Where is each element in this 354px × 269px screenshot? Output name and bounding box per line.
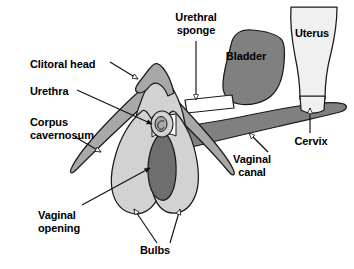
- cervix-shape: [300, 96, 325, 113]
- label-corpus-cavernosum-line2: cavernosum: [30, 129, 94, 141]
- bulbs-leader-right: [170, 209, 180, 243]
- label-urethral-sponge-line1: Urethral: [175, 11, 216, 23]
- label-bladder: Bladder: [218, 50, 274, 63]
- label-vaginal-canal: Vaginalcanal: [222, 153, 282, 178]
- label-vaginal-opening: Vaginalopening: [38, 209, 80, 234]
- urethral-sponge-shape: [185, 95, 234, 113]
- label-cervix: Cervix: [285, 135, 337, 148]
- bladder-shape: [223, 30, 285, 105]
- bulbs-leader-left: [134, 209, 157, 243]
- label-corpus-cavernosum-line1: Corpus: [30, 116, 68, 128]
- label-clitoral-head: Clitoral head: [30, 58, 95, 71]
- label-bulbs: Bulbs: [130, 244, 180, 257]
- label-urethral-sponge: Urethralsponge: [156, 11, 236, 36]
- label-uterus: Uterus: [285, 27, 339, 40]
- label-vaginal-opening-line1: Vaginal: [38, 209, 76, 221]
- vaginal-canal-leader: [249, 133, 268, 152]
- diagram-canvas: Clitoral head Urethra Corpuscavernosum V…: [0, 0, 354, 269]
- label-vaginal-canal-line2: canal: [238, 166, 266, 178]
- label-urethral-sponge-line2: sponge: [177, 24, 216, 36]
- label-corpus-cavernosum: Corpuscavernosum: [30, 116, 94, 141]
- uterus-shape: [291, 7, 337, 99]
- label-vaginal-opening-line2: opening: [38, 222, 80, 234]
- clitoral-head-leader: [110, 62, 138, 79]
- label-vaginal-canal-line1: Vaginal: [233, 153, 271, 165]
- label-urethra: Urethra: [30, 85, 68, 98]
